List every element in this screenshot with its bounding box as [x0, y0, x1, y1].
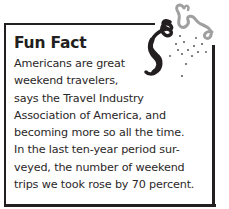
party-streamer-icon: [140, 0, 229, 90]
body-line: becoming more so all the time.: [14, 124, 214, 141]
frame-bottom-border: [4, 204, 216, 207]
frame-top-border: [4, 23, 155, 25]
body-line: trips we took rose by 70 percent.: [14, 176, 214, 193]
frame-left-border: [4, 23, 6, 207]
body-line: says the Travel Industry: [14, 90, 214, 107]
body-line: Association of America, and: [14, 107, 214, 124]
body-line: veyed, the number of weekend: [14, 159, 214, 176]
callout-title: Fun Fact: [14, 34, 86, 52]
body-line: In the last ten-year period sur-: [14, 141, 214, 158]
